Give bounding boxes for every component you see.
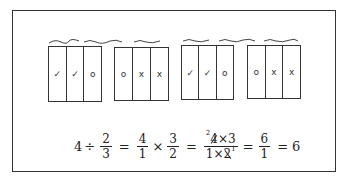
cell-circle: o: [115, 48, 132, 100]
times-operator: ×: [152, 139, 163, 154]
cell-circle: o: [248, 46, 265, 98]
fraction-three-halves: 3 2: [167, 133, 179, 160]
cell-check: ✓: [198, 46, 215, 99]
fraction-cancellation: 24×3 1×21: [204, 133, 238, 160]
result-value: 6: [292, 139, 300, 154]
cell-cross: x: [132, 48, 150, 100]
fraction-two-thirds: 2 3: [100, 133, 112, 160]
fraction-group-2: o x x: [114, 47, 169, 101]
fraction-group-1: ✓ ✓ o: [48, 46, 102, 102]
cancelled-four: 4: [210, 132, 218, 146]
cell-check: ✓: [49, 47, 66, 101]
cell-cross: x: [150, 48, 168, 100]
fraction-four-over-one: 4 1: [137, 133, 149, 160]
cell-check: ✓: [182, 46, 198, 99]
cell-circle: o: [216, 46, 233, 99]
divide-operator: ÷: [84, 139, 95, 154]
fraction-group-3: ✓ ✓ o: [181, 45, 234, 100]
equals-sign: =: [186, 139, 197, 154]
fraction-group-4: o x x: [247, 45, 301, 99]
equals-sign: =: [243, 139, 254, 154]
cell-check: ✓: [66, 47, 84, 101]
whole-number: 4: [74, 139, 82, 154]
cell-cross: x: [265, 46, 283, 98]
cell-circle: o: [83, 47, 101, 101]
fraction-six-over-one: 6 1: [259, 133, 271, 160]
equals-sign: =: [119, 139, 130, 154]
division-equation: 4 ÷ 2 3 = 4 1 × 3 2 = 24×3 1×21 = 6 1 = …: [74, 128, 300, 164]
cell-cross: x: [282, 46, 300, 98]
equals-sign: =: [277, 139, 288, 154]
